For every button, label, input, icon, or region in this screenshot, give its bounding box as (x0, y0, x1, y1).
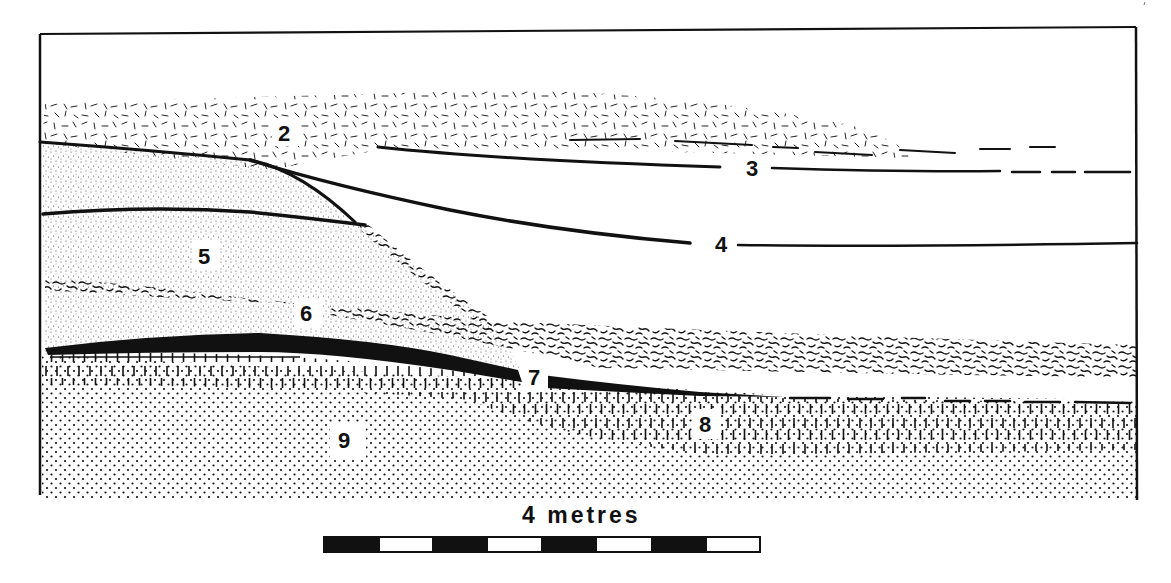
layer-label-9: 9 (338, 428, 350, 453)
layer-label-4: 4 (715, 232, 728, 257)
layer-label-2: 2 (278, 121, 290, 146)
cross-section-diagram: 2 3 4 5 6 7 8 9 4 metres (0, 0, 1171, 583)
layer-label-5: 5 (198, 244, 210, 269)
scale-bar: 4 metres (324, 502, 760, 552)
corner-mark (1144, 2, 1145, 5)
layer-label-6: 6 (300, 301, 312, 326)
scale-bar-label: 4 metres (522, 502, 641, 528)
layer-label-3: 3 (746, 156, 758, 181)
layer-label-8: 8 (699, 412, 711, 437)
layer-label-7: 7 (528, 365, 540, 390)
layer-2-fill (42, 90, 910, 170)
